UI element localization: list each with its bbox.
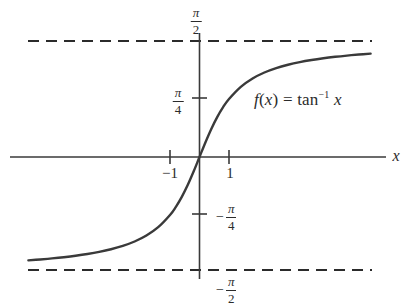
- fraction-denominator: 2: [191, 22, 202, 37]
- y-tick-label-negative-pi-over-four: − π 4: [216, 202, 236, 232]
- minus-sign: −: [216, 283, 226, 297]
- formula-equals-sign: =: [283, 90, 293, 109]
- function-formula-label: f(x) = tan−1 x: [254, 90, 342, 108]
- fraction-numerator: π: [226, 275, 237, 291]
- fraction-denominator: 4: [173, 102, 184, 117]
- arctan-plot-figure: π 2 π 4 − π 4 − π 2 −1 1 x f(x) = tan−1 …: [0, 0, 418, 307]
- x-axis-label: x: [392, 148, 399, 164]
- fraction-numerator: π: [191, 6, 202, 22]
- formula-variable: x: [265, 90, 273, 109]
- fraction-denominator: 4: [226, 218, 237, 233]
- fraction-numerator: π: [173, 86, 184, 102]
- formula-argument: x: [334, 90, 342, 109]
- formula-close-paren: ): [273, 90, 279, 109]
- y-tick-label-pi-over-four: π 4: [173, 86, 184, 116]
- fraction-denominator: 2: [226, 291, 237, 306]
- asymptote-label-negative-pi-over-two: − π 2: [216, 275, 236, 305]
- x-tick-label-minus-one: −1: [162, 166, 178, 181]
- formula-exponent: −1: [319, 89, 330, 100]
- x-tick-label-one: 1: [226, 166, 234, 181]
- fraction-numerator: π: [226, 202, 237, 218]
- formula-tan: tan: [297, 90, 318, 109]
- asymptote-label-pi-over-two: π 2: [191, 6, 202, 36]
- plot-canvas: [0, 0, 418, 307]
- minus-sign: −: [216, 210, 226, 224]
